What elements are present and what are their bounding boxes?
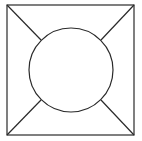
square-circle-diagram xyxy=(0,0,142,141)
diagonal-bottom-left xyxy=(7,100,41,135)
diagonal-bottom-right xyxy=(101,100,134,135)
inner-circle xyxy=(29,28,113,112)
diagonal-top-right xyxy=(101,5,134,40)
diagonal-top-left xyxy=(7,5,41,40)
